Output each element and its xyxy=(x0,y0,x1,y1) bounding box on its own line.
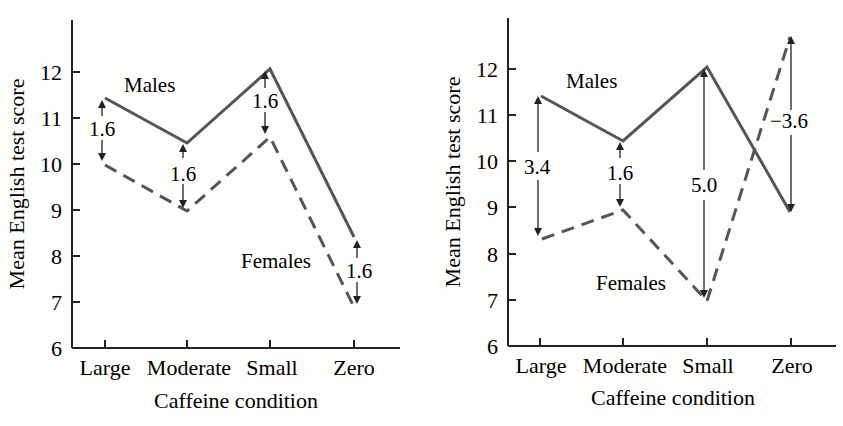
left-ytick-8: 8 xyxy=(51,244,62,269)
left-males-label: Males xyxy=(124,73,175,97)
right-ytick-6: 6 xyxy=(487,334,498,359)
left-females-label: Females xyxy=(241,249,311,273)
figure: 12 11 10 9 8 7 6 Large Moderate Small Ze… xyxy=(0,0,843,426)
left-x-axis-title: Caffeine condition xyxy=(154,388,318,413)
right-ytick-10: 10 xyxy=(476,149,498,174)
right-cat-small: Small xyxy=(682,353,733,378)
left-ytick-7: 7 xyxy=(51,290,62,315)
right-cat-large: Large xyxy=(516,353,567,378)
left-ytick-12: 12 xyxy=(40,60,62,85)
left-cat-large: Large xyxy=(80,355,131,380)
right-ytick-11: 11 xyxy=(477,103,498,128)
left-y-axis-title: Mean English test score xyxy=(4,79,29,290)
right-cat-moderate: Moderate xyxy=(583,353,667,378)
right-diff-large: 3.4 xyxy=(524,155,551,179)
right-ytick-8: 8 xyxy=(487,242,498,267)
left-cat-moderate: Moderate xyxy=(147,355,231,380)
right-ytick-12: 12 xyxy=(476,57,498,82)
left-ytick-10: 10 xyxy=(40,152,62,177)
left-ytick-6: 6 xyxy=(51,336,62,361)
right-x-ticks xyxy=(540,338,791,346)
left-chart: 12 11 10 9 8 7 6 Large Moderate Small Ze… xyxy=(4,20,400,413)
left-diff-arrows xyxy=(102,75,357,300)
right-cat-zero: Zero xyxy=(771,353,813,378)
left-diff-moderate: 1.6 xyxy=(170,162,196,186)
right-males-label: Males xyxy=(566,69,617,93)
right-females-label: Females xyxy=(596,271,666,295)
right-chart: 12 11 10 9 8 7 6 Large Moderate Small Ze… xyxy=(440,18,836,410)
left-cat-zero: Zero xyxy=(333,355,375,380)
right-ytick-9: 9 xyxy=(487,195,498,220)
left-ytick-9: 9 xyxy=(51,198,62,223)
right-diff-small: 5.0 xyxy=(691,173,717,197)
left-diff-large: 1.6 xyxy=(89,117,115,141)
left-diff-small: 1.6 xyxy=(252,89,278,113)
right-diff-zero: −3.6 xyxy=(770,109,808,133)
right-ytick-7: 7 xyxy=(487,288,498,313)
right-y-axis-title: Mean English test score xyxy=(440,77,465,288)
left-ytick-11: 11 xyxy=(41,106,62,131)
right-x-axis-title: Caffeine condition xyxy=(591,385,755,410)
left-diff-zero: 1.6 xyxy=(346,259,372,283)
right-diff-moderate: 1.6 xyxy=(607,161,633,185)
left-cat-small: Small xyxy=(246,355,297,380)
left-x-ticks xyxy=(105,340,354,348)
right-y-ticks xyxy=(508,69,516,300)
left-y-ticks xyxy=(72,72,80,302)
